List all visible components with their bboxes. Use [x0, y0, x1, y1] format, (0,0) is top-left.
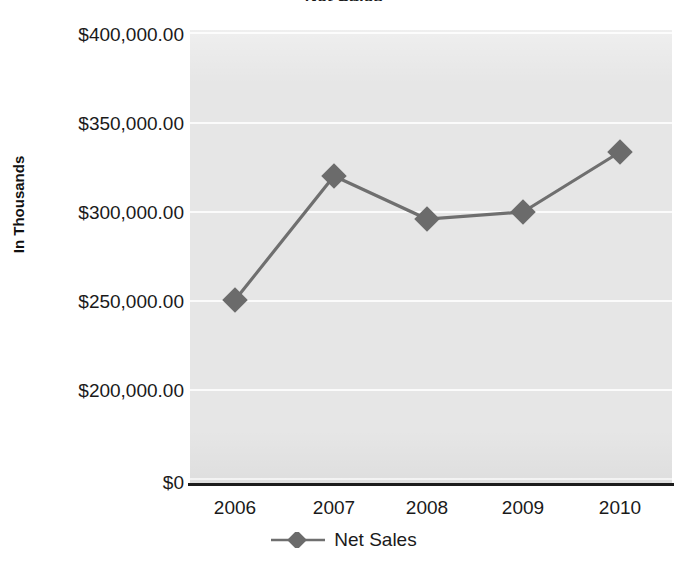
- legend-label-net-sales: Net Sales: [334, 530, 416, 549]
- legend-marker-diamond-icon: [271, 532, 325, 548]
- x-tick-label-2010: 2010: [565, 497, 675, 519]
- series-markers: [222, 139, 632, 312]
- series-net-sales: [0, 0, 688, 568]
- data-point-2008: [414, 206, 439, 231]
- x-axis-tick-labels: 2006 2007 2008 2009 2010: [190, 497, 672, 525]
- x-tick-label-2008: 2008: [372, 497, 482, 519]
- net-sales-line-chart: Net Sales In Thousands $400,000.00 $350,…: [0, 0, 688, 568]
- chart-legend: Net Sales: [0, 530, 688, 549]
- data-point-2009: [510, 199, 535, 224]
- data-point-2010: [607, 139, 632, 164]
- x-tick-label-2006: 2006: [180, 497, 290, 519]
- x-tick-label-2009: 2009: [468, 497, 578, 519]
